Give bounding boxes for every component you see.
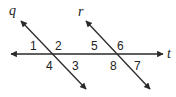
- angle-label-2: 2: [55, 40, 62, 52]
- angle-label-1: 1: [30, 40, 37, 52]
- line-q: [21, 21, 86, 89]
- line-r: [86, 21, 150, 89]
- diagram-lines: [0, 0, 176, 97]
- angle-label-4: 4: [46, 60, 53, 72]
- angle-label-6: 6: [117, 40, 124, 52]
- angle-label-8: 8: [110, 60, 117, 72]
- transversal-diagram: q r t 1 2 3 4 5 6 7 8: [0, 0, 176, 97]
- label-line-t: t: [167, 47, 171, 61]
- angle-label-3: 3: [72, 60, 79, 72]
- angle-label-7: 7: [134, 60, 141, 72]
- angle-label-5: 5: [91, 40, 98, 52]
- label-line-q: q: [9, 4, 16, 18]
- label-line-r: r: [78, 5, 83, 19]
